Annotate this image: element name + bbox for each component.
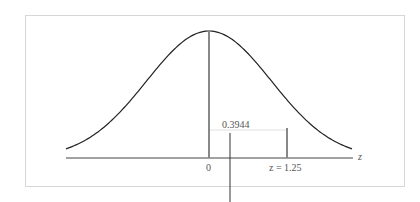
x-axis-label: z [358,152,362,162]
zero-tick-label: 0 [206,163,211,173]
area-label: 0.3944 [222,120,250,130]
z-tick-label: z = 1.25 [269,163,302,173]
